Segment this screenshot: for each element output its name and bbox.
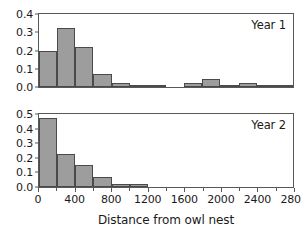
x-axis-tick-mark bbox=[257, 188, 258, 192]
x-axis-tick-mark bbox=[75, 188, 76, 192]
histogram-bar bbox=[57, 28, 75, 87]
x-axis-tick-mark bbox=[148, 188, 149, 192]
y-axis-tick-label: 0.3 bbox=[16, 27, 39, 38]
histogram-bar bbox=[130, 184, 148, 187]
x-axis-minor-tick-mark bbox=[239, 188, 240, 191]
x-axis-tick-label: 2000 bbox=[207, 194, 234, 205]
histogram-bar bbox=[112, 184, 130, 187]
histogram-bar bbox=[39, 51, 57, 88]
histogram-bar bbox=[202, 79, 220, 87]
x-axis-tick-label: 400 bbox=[64, 194, 84, 205]
histogram-bar bbox=[220, 85, 238, 87]
x-axis-tick-label: 0 bbox=[35, 194, 42, 205]
y-axis-tick-label: 0.4 bbox=[16, 123, 39, 134]
panel-label-year-2: Year 2 bbox=[251, 118, 286, 132]
x-axis-tick-mark bbox=[184, 188, 185, 192]
x-axis-title: Distance from owl nest bbox=[38, 213, 294, 227]
y-axis-tick-label: 0.1 bbox=[16, 63, 39, 74]
x-axis-tick-label: 2800 bbox=[280, 194, 301, 205]
x-axis-minor-tick-mark bbox=[56, 188, 57, 191]
x-axis-tick-mark bbox=[294, 188, 295, 192]
x-axis-tick-mark bbox=[111, 188, 112, 192]
y-axis-tick-label: 0.2 bbox=[16, 45, 39, 56]
y-axis-tick-label: 0.0 bbox=[16, 182, 39, 193]
y-axis-tick-label: 0.5 bbox=[16, 109, 39, 120]
panel-year-2: 0.00.10.20.30.40.5 Year 2 bbox=[38, 113, 294, 188]
histogram-bar bbox=[75, 165, 93, 187]
histogram-bar bbox=[112, 83, 130, 87]
x-axis-tick-mark bbox=[38, 188, 39, 192]
y-axis-tick-label: 0.3 bbox=[16, 138, 39, 149]
x-axis-minor-tick-mark bbox=[276, 188, 277, 191]
x-axis-minor-tick-mark bbox=[129, 188, 130, 191]
panel-label-year-1: Year 1 bbox=[251, 18, 286, 32]
x-axis-minor-tick-mark bbox=[166, 188, 167, 191]
histogram-bar bbox=[239, 83, 257, 87]
histogram-bar bbox=[275, 85, 293, 87]
histogram-bar bbox=[257, 85, 275, 87]
x-axis-tick-label: 800 bbox=[101, 194, 121, 205]
histogram-bar bbox=[75, 47, 93, 88]
histogram-bar bbox=[130, 85, 148, 87]
x-axis-tick-label: 2400 bbox=[244, 194, 271, 205]
histogram-bar bbox=[93, 74, 111, 87]
x-axis-tick-label: 1600 bbox=[171, 194, 198, 205]
histogram-bar bbox=[148, 85, 166, 87]
histogram-bar bbox=[39, 118, 57, 187]
histogram-figure: 0.00.10.20.30.4 Year 1 0.00.10.20.30.40.… bbox=[0, 0, 301, 233]
y-axis-tick-label: 0.0 bbox=[16, 82, 39, 93]
histogram-bar bbox=[57, 154, 75, 187]
x-axis-tick-mark bbox=[221, 188, 222, 192]
y-axis-tick-label: 0.4 bbox=[16, 9, 39, 20]
x-axis-minor-tick-mark bbox=[93, 188, 94, 191]
histogram-bar bbox=[93, 177, 111, 188]
x-axis: Distance from owl nest 04008001200160020… bbox=[38, 188, 294, 233]
y-axis-tick-label: 0.1 bbox=[16, 167, 39, 178]
x-axis-tick-label: 1200 bbox=[134, 194, 161, 205]
y-axis-tick-label: 0.2 bbox=[16, 152, 39, 163]
x-axis-minor-tick-mark bbox=[203, 188, 204, 191]
panel-year-1: 0.00.10.20.30.4 Year 1 bbox=[38, 13, 294, 88]
histogram-bar bbox=[184, 83, 202, 87]
